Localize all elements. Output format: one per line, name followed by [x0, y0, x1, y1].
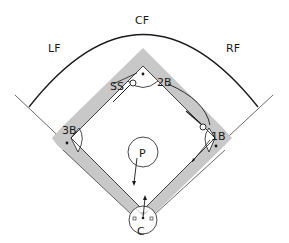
label-right-field: RF	[226, 42, 240, 55]
catcher-arrowhead	[143, 195, 147, 200]
label-center-field: CF	[135, 14, 149, 27]
label-left-field: LF	[48, 42, 60, 55]
first-base-dot	[215, 145, 218, 148]
batter-box-left	[133, 217, 136, 220]
first-base-coach-line	[154, 150, 225, 215]
label-third-base: 3B	[62, 124, 77, 137]
label-first-base: 1B	[211, 130, 226, 143]
label-pitcher: P	[139, 147, 146, 160]
baseball-field-diagram: CF LF RF SS 2B 3B 1B P C	[0, 0, 289, 243]
outfield-arc	[29, 35, 258, 108]
third-base-dot	[66, 142, 69, 145]
label-catcher: C	[137, 225, 145, 238]
label-second-base: 2B	[157, 76, 172, 89]
ss-position-marker	[130, 80, 136, 86]
batter-box-right	[150, 217, 153, 220]
first-base-position-marker	[200, 124, 206, 130]
pitcher-arrowhead	[132, 181, 136, 186]
third-base-coach-line	[63, 150, 132, 215]
second-base-dot	[142, 73, 145, 76]
label-shortstop: SS	[110, 80, 124, 93]
